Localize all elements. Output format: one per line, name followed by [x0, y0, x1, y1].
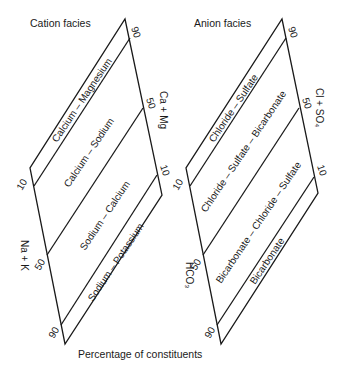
anion-facies-bicarbonate: Bicarbonate	[248, 235, 287, 286]
cation-facies-panel: Cation facies 90 50 10 Ca + Mg 10 50 90 …	[14, 17, 172, 344]
anion-tick-right-10: 10	[315, 163, 329, 177]
anion-frame	[186, 19, 318, 344]
cation-tick-left-10: 10	[14, 176, 29, 192]
anion-tick-right-50: 50	[300, 96, 314, 110]
cation-line-10	[61, 175, 157, 325]
cation-tick-left-90: 90	[46, 324, 61, 340]
anion-axis-left: HCO₃	[184, 262, 195, 288]
anion-axis-right: Cl + SO₄	[314, 88, 325, 127]
cation-axis-left: Na + K	[19, 240, 30, 271]
anion-title: Anion facies	[194, 17, 251, 29]
facies-diagram: Cation facies 90 50 10 Ca + Mg 10 50 90 …	[0, 0, 343, 373]
cation-axis-right: Ca + Mg	[158, 91, 169, 129]
caption: Percentage of constituents	[78, 348, 202, 360]
anion-tick-left-10: 10	[170, 176, 185, 192]
anion-tick-left-90: 90	[202, 324, 217, 340]
cation-tick-right-10: 10	[158, 163, 172, 177]
cation-tick-left-50: 50	[32, 256, 47, 272]
cation-title: Cation facies	[30, 17, 91, 29]
cation-tick-right-90: 90	[129, 25, 143, 39]
cation-tick-right-50: 50	[144, 96, 158, 110]
anion-facies-panel: Anion facies 90 50 10 Cl + SO₄ 10 50 90 …	[170, 17, 329, 344]
anion-tick-right-90: 90	[286, 25, 300, 39]
